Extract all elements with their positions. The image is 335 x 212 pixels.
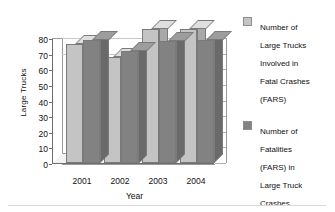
chart-legend: Number of Large Trucks Involved in Fatal… (243, 16, 335, 212)
x-tick-label: 2002 (103, 176, 137, 186)
legend-color-swatch (243, 121, 252, 130)
bar-side-face (100, 31, 109, 163)
legend-item[interactable]: Number of Large Trucks Involved in Fatal… (243, 16, 335, 106)
x-axis-tick-labels: 2001200220032004 (52, 176, 232, 188)
x-tick-label: 2004 (179, 176, 213, 186)
legend-item[interactable]: Number of Fatalities (FARS) in Large Tru… (243, 120, 335, 210)
bar (197, 40, 214, 163)
legend-label: Number of Fatalities (FARS) in Large Tru… (260, 127, 302, 208)
bar (83, 40, 100, 163)
bar (66, 44, 83, 163)
chart-container: Large Trucks 01020304050607080 200120022… (0, 0, 335, 212)
bar-top-face (189, 20, 215, 29)
y-tick-label: 10 (26, 144, 48, 154)
bar (121, 51, 138, 164)
y-tick-label: 60 (26, 66, 48, 76)
legend-color-swatch (243, 17, 252, 26)
x-tick-label: 2003 (141, 176, 175, 186)
bar (159, 41, 176, 163)
y-tick-label: 80 (26, 35, 48, 45)
y-tick-label: 30 (26, 113, 48, 123)
bar-series-group (52, 28, 227, 173)
y-tick-label: 70 (26, 51, 48, 61)
x-axis-title: Year (52, 191, 217, 201)
x-tick-label: 2001 (65, 176, 99, 186)
bar-top-face (151, 20, 177, 29)
bar-side-face (176, 32, 185, 163)
bar-front-face (159, 41, 176, 163)
y-tick-label: 0 (26, 160, 48, 170)
bottom-divider (8, 205, 326, 206)
bar-front-face (197, 40, 214, 163)
bar-side-face (214, 31, 223, 163)
y-tick-label: 20 (26, 129, 48, 139)
legend-label: Number of Large Trucks Involved in Fatal… (260, 23, 310, 104)
bar-side-face (138, 42, 147, 164)
bar-top-face (92, 31, 118, 40)
bar-front-face (83, 40, 100, 163)
plot-area: Large Trucks 01020304050607080 200120022… (0, 0, 240, 212)
bar-top-face (206, 31, 232, 40)
y-tick-label: 40 (26, 98, 48, 108)
bar-front-face (121, 51, 138, 164)
chart-3d-box (52, 28, 227, 173)
bar-front-face (66, 44, 83, 163)
y-axis-tick-labels: 01020304050607080 (26, 40, 48, 174)
y-tick-label: 50 (26, 82, 48, 92)
